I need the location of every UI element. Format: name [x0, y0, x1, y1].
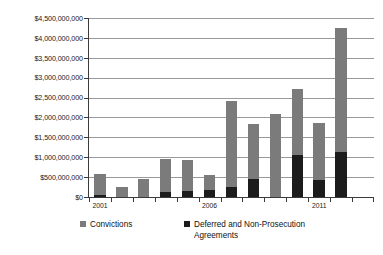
bar-segment-convictions	[116, 187, 127, 197]
legend-item-agreements: Deferred and Non-Prosecution Agreements	[184, 219, 359, 241]
bar-segment-convictions	[226, 101, 237, 187]
y-axis-tick-label: $1,000,000,000	[3, 153, 83, 162]
bar-segment-convictions	[138, 179, 149, 197]
x-axis-tick-label: 2011	[312, 202, 327, 209]
y-axis-tick-label: $3,500,000,000	[3, 54, 83, 63]
bar-segment-convictions	[270, 114, 281, 197]
x-axis-tick-mark	[155, 198, 156, 202]
y-axis-tick-mark	[84, 137, 89, 138]
y-axis-tick-mark	[84, 197, 89, 198]
bar-column	[226, 101, 237, 197]
y-axis-tick-label: $1,500,000,000	[3, 133, 83, 142]
y-axis-tick-label: $500,000,000	[3, 173, 83, 182]
bar-segment-convictions	[313, 123, 324, 179]
x-axis-tick-mark	[264, 198, 265, 202]
x-axis-tick-mark	[89, 198, 90, 202]
y-axis-tick-mark	[84, 98, 89, 99]
x-axis-tick-mark	[242, 198, 243, 202]
y-axis-tick-label: $2,500,000,000	[3, 93, 83, 102]
x-axis-tick-mark	[330, 198, 331, 202]
bar-column	[204, 175, 215, 197]
legend-item-convictions: Convictions	[80, 219, 132, 230]
x-axis-tick-mark	[308, 198, 309, 202]
bar-segment-agreements	[204, 190, 215, 197]
x-axis-tick-mark	[286, 198, 287, 202]
x-axis-tick-label: 2006	[202, 202, 217, 209]
y-axis-tick-mark	[84, 38, 89, 39]
stacked-bar-chart: $0$500,000,000$1,000,000,000$1,500,000,0…	[0, 0, 383, 255]
y-axis-tick-label: $4,500,000,000	[3, 14, 83, 23]
y-axis-tick-mark	[84, 157, 89, 158]
chart-legend: Convictions Deferred and Non-Prosecution…	[80, 219, 380, 251]
x-axis-tick-mark	[111, 198, 112, 202]
legend-swatch-convictions	[80, 221, 86, 227]
bar-column	[335, 28, 346, 197]
bar-segment-agreements	[248, 179, 259, 197]
bar-column	[292, 89, 303, 197]
y-axis-tick-label: $2,000,000,000	[3, 113, 83, 122]
y-axis-tick-mark	[84, 58, 89, 59]
y-axis-tick-mark	[84, 78, 89, 79]
bar-column	[248, 124, 259, 197]
y-axis-tick-mark	[84, 18, 89, 19]
y-axis-line	[88, 18, 89, 198]
bar-column	[116, 187, 127, 197]
bar-column	[94, 174, 105, 197]
x-axis-tick-mark	[373, 198, 374, 202]
y-axis-tick-mark	[84, 117, 89, 118]
bar-segment-convictions	[94, 174, 105, 195]
y-axis-tick-label: $3,000,000,000	[3, 73, 83, 82]
y-axis-tick-label: $0	[3, 193, 83, 202]
bar-column	[270, 114, 281, 197]
bar-segment-agreements	[226, 187, 237, 197]
y-axis-labels: $0$500,000,000$1,000,000,000$1,500,000,0…	[0, 0, 83, 255]
bar-segment-convictions	[182, 160, 193, 191]
x-axis-tick-mark	[221, 198, 222, 202]
bar-segment-agreements	[335, 152, 346, 197]
bar-segment-agreements	[292, 155, 303, 197]
legend-label-convictions: Convictions	[90, 219, 132, 230]
bar-segment-convictions	[160, 159, 171, 192]
x-axis-tick-mark	[199, 198, 200, 202]
bar-segment-convictions	[335, 28, 346, 152]
bar-column	[138, 179, 149, 197]
bars-layer	[89, 18, 374, 197]
bar-segment-convictions	[292, 89, 303, 155]
bar-column	[182, 160, 193, 197]
bar-segment-agreements	[313, 180, 324, 198]
legend-swatch-agreements	[184, 221, 190, 227]
bar-segment-convictions	[248, 124, 259, 179]
bar-segment-convictions	[204, 175, 215, 190]
x-axis-tick-mark	[133, 198, 134, 202]
y-axis-tick-mark	[84, 177, 89, 178]
legend-label-agreements: Deferred and Non-Prosecution Agreements	[194, 219, 305, 241]
x-axis-tick-label: 2001	[92, 202, 107, 209]
bar-column	[313, 123, 324, 197]
x-axis-tick-mark	[177, 198, 178, 202]
x-axis-tick-mark	[352, 198, 353, 202]
bar-column	[160, 159, 171, 197]
y-axis-tick-label: $4,000,000,000	[3, 34, 83, 43]
x-axis-labels: 200120062011	[0, 202, 383, 214]
